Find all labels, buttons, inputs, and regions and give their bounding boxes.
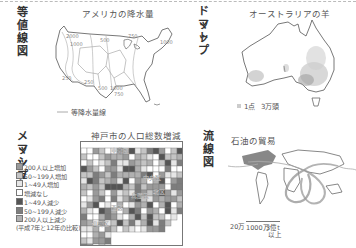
flow-subtitle: 石油の貿易 [231,134,276,146]
svg-text:西区: 西区 [111,204,123,212]
dot-legend-value: 3万頭 [261,101,279,111]
kobe-mesh-map: 東灘区中央区兵庫区西区須磨区北区 [80,141,183,246]
mesh-legend-item: 1~49人増加 [16,180,81,189]
svg-text:1000: 1000 [70,41,83,47]
svg-text:750: 750 [114,91,124,97]
top-dashed-divider [0,1,356,2]
svg-text:500: 500 [100,37,110,43]
mesh-legend-item: 増減なし [16,189,81,198]
isoline-legend-label: 等降水量線 [71,107,106,117]
svg-text:250: 250 [62,75,72,81]
mesh-legend-item: 200人以上増加 [16,163,81,172]
mesh-legend-item: 1~49人減少 [16,198,81,207]
flow-legend-small: 20万 [230,221,245,231]
dot-legend-icon [237,104,242,109]
dot-heading-line2: マップ [198,18,209,57]
mesh-legend-note: (平成7年と12年の比較) [16,224,81,232]
svg-text:500: 500 [98,85,108,91]
svg-text:250: 250 [84,79,94,85]
svg-text:北区: 北区 [153,188,165,196]
mesh-legend-item: 50~199人増加 [16,172,81,181]
isoline-subtitle: アメリカの降水量 [82,7,154,19]
svg-text:2000: 2000 [66,33,79,39]
mesh-legend-item: 50~199人減少 [16,207,81,216]
australia-sheep-map [238,18,350,110]
mesh-legend-item: 200人以上減少 [16,215,81,224]
flow-heading: 流線図 [203,130,214,169]
svg-text:東灘区: 東灘区 [111,147,129,155]
svg-text:兵庫区: 兵庫区 [131,192,149,200]
mesh-legend: 200人以上増加 50~199人増加 1~49人増加 増減なし 1~49人減少 … [16,163,81,232]
svg-text:須磨区: 須磨区 [91,220,109,228]
svg-text:中央区: 中央区 [143,174,161,182]
isoline-legend-icon [57,109,69,115]
dot-legend-dot: 1点 [244,101,255,111]
mesh-subtitle: 神戸市の人口総数増減 [91,129,181,141]
usa-precipitation-map: 2000 1000 500 750 1000 250 250 500 1000 … [50,20,180,112]
flow-legend-large-suffix: 以上 [268,229,282,239]
isoline-heading: 等値線図 [17,6,28,58]
svg-text:750: 750 [128,33,138,39]
world-oil-trade-map [228,148,356,210]
svg-text:1000: 1000 [160,39,173,45]
